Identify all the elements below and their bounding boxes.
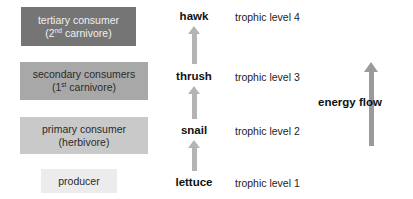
chain-arrow-lettuce-to-snail-icon	[188, 140, 201, 171]
chain-arrow-snail-to-thrush-icon	[188, 86, 201, 119]
trophic-level-3-label: trophic level 3	[235, 71, 300, 83]
primary-consumer-label: primary consumer	[42, 123, 126, 136]
trophic-role-box-tertiary-consumer: tertiary consumer (2nd carnivore)	[21, 7, 136, 46]
trophic-level-2-label: trophic level 2	[235, 125, 300, 137]
producer-label: producer	[58, 175, 99, 188]
arrow-shaft	[192, 146, 197, 171]
tertiary-sub-ordinal: nd	[55, 26, 62, 33]
tertiary-consumer-label: tertiary consumer	[38, 14, 119, 27]
trophic-role-box-producer: producer	[41, 169, 117, 193]
food-chain-diagram: tertiary consumer (2nd carnivore) second…	[0, 0, 413, 199]
trophic-level-4-label: trophic level 4	[235, 11, 300, 23]
primary-consumer-sublabel: (herbivore)	[59, 136, 110, 149]
secondary-consumers-label: secondary consumers	[33, 68, 136, 81]
trophic-level-1-label: trophic level 1	[235, 177, 300, 189]
arrow-shaft	[192, 92, 197, 119]
organism-hawk: hawk	[161, 10, 227, 22]
tertiary-sub-post: carnivore)	[62, 27, 112, 39]
energy-flow-label: energy flow	[318, 96, 382, 108]
organism-lettuce: lettuce	[161, 176, 227, 188]
arrow-shaft	[369, 70, 374, 146]
arrow-shaft	[192, 32, 197, 64]
secondary-sub-post: carnivore)	[66, 81, 116, 93]
tertiary-consumer-sublabel: (2nd carnivore)	[45, 27, 111, 40]
trophic-role-box-secondary-consumers: secondary consumers (1st carnivore)	[20, 62, 148, 100]
tertiary-sub-pre: (2	[45, 27, 54, 39]
secondary-consumers-sublabel: (1st carnivore)	[52, 81, 116, 94]
trophic-role-box-primary-consumer: primary consumer (herbivore)	[20, 117, 148, 154]
organism-snail: snail	[161, 124, 227, 136]
chain-arrow-thrush-to-hawk-icon	[188, 26, 201, 64]
organism-thrush: thrush	[161, 70, 227, 82]
secondary-sub-pre: (1	[52, 81, 61, 93]
